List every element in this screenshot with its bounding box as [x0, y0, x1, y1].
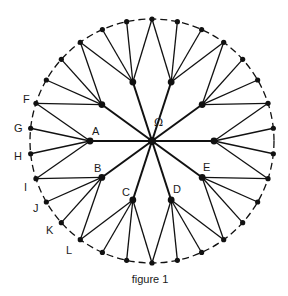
leaf-edge [202, 177, 257, 202]
perimeter-node [33, 101, 38, 106]
perimeter-node [265, 176, 270, 181]
hub-node [199, 174, 206, 181]
perimeter-node [59, 57, 64, 62]
perimeter-node [255, 199, 260, 204]
node-label-i: I [24, 181, 27, 193]
leaf-edge [80, 42, 102, 104]
hub-node [98, 101, 105, 108]
omega-label: Ω [154, 116, 163, 129]
spoke-edge [102, 105, 152, 141]
leaf-edge [171, 200, 224, 240]
leaf-edge [80, 200, 133, 240]
leaf-edge [80, 42, 133, 82]
hub-node [199, 101, 206, 108]
perimeter-node [28, 126, 33, 131]
leaf-edge [202, 177, 224, 239]
node-label-c: C [122, 186, 130, 198]
spoke-edge [152, 141, 202, 177]
hub-node [87, 138, 94, 145]
leaf-edge [152, 200, 171, 263]
perimeter-node [271, 151, 276, 156]
leaf-edge [61, 177, 102, 222]
leaf-edge [202, 42, 224, 104]
perimeter-node [255, 77, 260, 82]
perimeter-node [221, 237, 226, 242]
leaf-edge [61, 59, 102, 104]
center-node-omega [148, 137, 156, 145]
node-label-e: E [203, 161, 210, 173]
spoke-edge [152, 82, 171, 141]
spoke-edge [133, 141, 152, 200]
perimeter-node [221, 40, 226, 45]
leaf-edge [80, 177, 102, 239]
perimeter-node [124, 19, 129, 24]
perimeter-node [28, 151, 33, 156]
node-label-f: F [23, 93, 30, 105]
leaf-edge [133, 19, 152, 82]
leaf-edge [46, 177, 101, 202]
perimeter-node [44, 77, 49, 82]
perimeter-node [33, 176, 38, 181]
leaf-edge [36, 103, 102, 104]
spoke-edge [102, 141, 152, 177]
perimeter-node [78, 237, 83, 242]
node-label-g: G [14, 122, 23, 134]
hub-node [168, 79, 175, 86]
spoke-edge [133, 82, 152, 141]
node-labels: ABCDEFGHIJKL [14, 93, 210, 256]
node-label-b: B [94, 162, 101, 174]
node-label-l: L [66, 244, 72, 256]
leaf-edge [46, 80, 101, 105]
leaf-edge [202, 177, 243, 222]
perimeter-node [149, 16, 154, 21]
perimeter-node [124, 258, 129, 263]
node-label-d: D [173, 183, 181, 195]
leaf-edge [133, 200, 152, 263]
perimeter-node [199, 250, 204, 255]
perimeter-node [175, 19, 180, 24]
perimeter-node [100, 27, 105, 32]
perimeter-node [240, 220, 245, 225]
node-label-k: K [46, 224, 54, 236]
hub-node [211, 138, 218, 145]
perimeter-node [59, 220, 64, 225]
perimeter-node [149, 260, 154, 265]
node-label-a: A [92, 125, 100, 137]
node-label-h: H [14, 150, 22, 162]
hub-node [98, 174, 105, 181]
figure-diagram: ABCDEFGHIJKL Ω figure 1 [0, 0, 288, 296]
perimeter-node [78, 40, 83, 45]
leaf-edge [202, 80, 257, 105]
perimeter-node [271, 126, 276, 131]
hub-node [129, 197, 136, 204]
figure-caption: figure 1 [132, 273, 169, 285]
hub-node [129, 79, 136, 86]
leaf-edge [152, 19, 171, 82]
leaf-edge [171, 42, 224, 82]
spoke-edge [152, 141, 171, 200]
leaf-edge [36, 177, 102, 178]
leaf-edge [202, 103, 268, 104]
perimeter-node [199, 27, 204, 32]
leaf-edge [202, 177, 268, 178]
perimeter-node [44, 199, 49, 204]
perimeter-node [175, 258, 180, 263]
perimeter-node [240, 57, 245, 62]
perimeter-node [265, 101, 270, 106]
perimeter-node [100, 250, 105, 255]
hub-node [168, 197, 175, 204]
leaf-edge [202, 59, 243, 104]
node-label-j: J [33, 202, 39, 214]
